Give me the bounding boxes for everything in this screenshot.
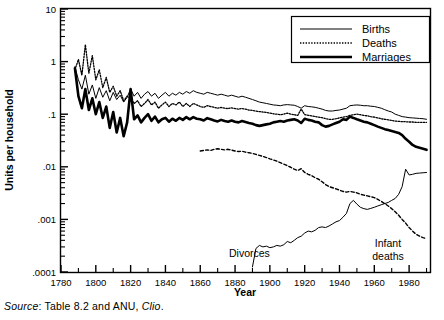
x-tick-label: 1860 [190,277,211,288]
y-tick-label: .01 [43,161,56,172]
x-tick-label: 1980 [399,277,420,288]
y-tick-label: 10 [45,4,56,15]
source-note: Source: Table 8.2 and ANU, Clio. [4,300,164,312]
y-axis-title: Units per household [3,89,15,191]
annotation-infant-deaths-line1: Infant [375,237,401,249]
source-text: : Table 8.2 and ANU, [38,300,141,312]
demographic-rates-log-chart: 101.1.01.001.0001 1780180018201840186018… [0,0,444,320]
x-tick-label: 1900 [259,277,280,288]
legend-label-marriages: Marriages [362,51,411,63]
y-axis-tick-labels: 101.1.01.001.0001 [32,4,56,278]
x-tick-label: 1960 [364,277,385,288]
y-tick-label: .001 [38,214,57,225]
legend: BirthsDeathsMarriages [292,17,430,64]
figure-container: 101.1.01.001.0001 1780180018201840186018… [0,0,444,320]
source-period: . [161,300,164,312]
x-tick-label: 1940 [329,277,350,288]
x-tick-label: 1840 [155,277,176,288]
y-tick-label: .0001 [32,267,56,278]
annotation-divorces: Divorces [229,247,270,259]
legend-label-deaths: Deaths [362,37,397,49]
source-clio: Clio [142,300,161,312]
source-label: Source [4,300,38,312]
legend-label-births: Births [362,23,391,35]
y-tick-label: .1 [48,109,56,120]
x-tick-label: 1920 [294,277,315,288]
y-tick-label: 1 [51,56,56,67]
annotation-infant-deaths-line2: deaths [372,250,404,262]
x-axis-title: Year [234,286,256,298]
x-tick-label: 1800 [85,277,106,288]
x-tick-label: 1780 [50,277,71,288]
x-tick-label: 1820 [120,277,141,288]
